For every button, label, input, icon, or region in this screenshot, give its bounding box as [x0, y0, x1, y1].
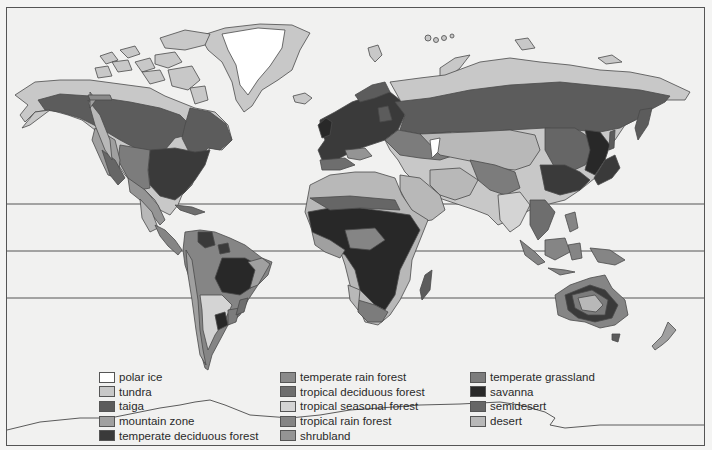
- sakhalin: [609, 130, 615, 150]
- legend-label: polar ice: [119, 371, 162, 383]
- greenland: [200, 24, 310, 112]
- new-zealand: [652, 322, 676, 350]
- legend-item-temperate-deciduous-forest: temperate deciduous forest: [99, 428, 258, 443]
- tasmania: [612, 334, 620, 342]
- legend-item-semidesert: semidesert: [470, 399, 595, 414]
- swatch-tropical-seasonal-forest: [280, 401, 296, 412]
- legend-label: tundra: [119, 386, 152, 398]
- legend-label: desert: [490, 415, 522, 427]
- legend-item-mountain-zone: mountain zone: [99, 414, 258, 429]
- caribbean: [175, 205, 205, 215]
- legend-label: savanna: [490, 386, 533, 398]
- australia: [555, 275, 628, 328]
- legend-label: tropical deciduous forest: [300, 386, 425, 398]
- legend-item-tropical-rain-forest: tropical rain forest: [280, 414, 425, 429]
- legend-label: temperate grassland: [490, 371, 595, 383]
- severnaya-zemlya: [515, 38, 535, 50]
- swatch-temperate-deciduous-forest: [99, 430, 115, 441]
- legend-column-2: temperate rain forest tropical deciduous…: [280, 370, 425, 443]
- swatch-polar-ice: [99, 372, 115, 383]
- legend-item-temperate-grassland: temperate grassland: [470, 370, 595, 385]
- swatch-taiga: [99, 401, 115, 412]
- legend-item-tropical-seasonal-forest: tropical seasonal forest: [280, 399, 425, 414]
- swatch-savanna: [470, 386, 486, 397]
- legend-item-shrubland: shrubland: [280, 428, 425, 443]
- swatch-temperate-rain-forest: [280, 372, 296, 383]
- legend-label: shrubland: [300, 430, 351, 442]
- legend-item-tropical-deciduous-forest: tropical deciduous forest: [280, 385, 425, 400]
- legend-item-desert: desert: [470, 414, 595, 429]
- swatch-shrubland: [280, 430, 296, 441]
- swatch-desert: [470, 416, 486, 427]
- legend-item-temperate-rain-forest: temperate rain forest: [280, 370, 425, 385]
- swatch-tropical-deciduous-forest: [280, 386, 296, 397]
- iceland: [293, 93, 312, 104]
- new-siberian-islands: [598, 55, 622, 64]
- swatch-semidesert: [470, 401, 486, 412]
- swatch-temperate-grassland: [470, 372, 486, 383]
- madagascar: [420, 270, 432, 300]
- legend-item-polar-ice: polar ice: [99, 370, 258, 385]
- legend-item-tundra: tundra: [99, 385, 258, 400]
- legend-label: taiga: [119, 400, 144, 412]
- europe: [318, 82, 405, 170]
- legend-column-1: polar ice tundra taiga mountain zone tem…: [99, 370, 258, 443]
- legend-item-savanna: savanna: [470, 385, 595, 400]
- legend-label: temperate rain forest: [300, 371, 406, 383]
- swatch-mountain-zone: [99, 416, 115, 427]
- swatch-tropical-rain-forest: [280, 416, 296, 427]
- swatch-tundra: [99, 386, 115, 397]
- legend-item-taiga: taiga: [99, 399, 258, 414]
- legend-column-3: temperate grassland savanna semidesert d…: [470, 370, 595, 428]
- legend-label: temperate deciduous forest: [119, 430, 258, 442]
- svalbard: [368, 45, 382, 62]
- franz-josef-land: [425, 34, 454, 43]
- legend-label: semidesert: [490, 400, 546, 412]
- legend-label: tropical seasonal forest: [300, 400, 418, 412]
- legend-label: mountain zone: [119, 415, 194, 427]
- legend-label: tropical rain forest: [300, 415, 391, 427]
